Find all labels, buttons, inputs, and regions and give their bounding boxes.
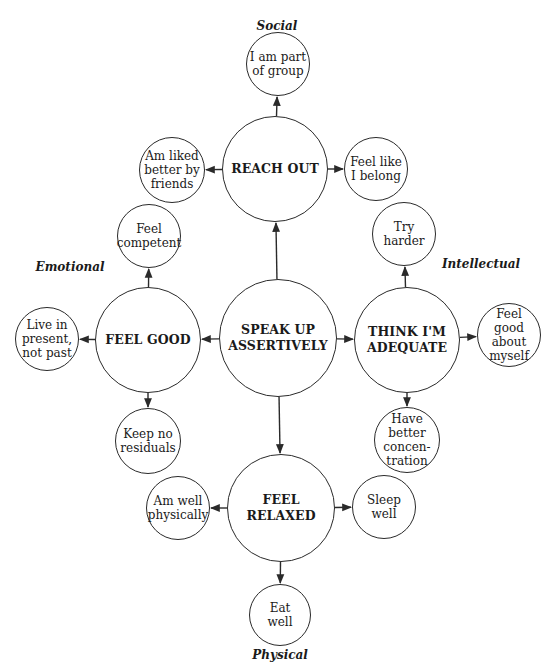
arrow-connector — [405, 267, 406, 287]
node-label: I am part of group — [250, 50, 306, 78]
arrow-connector — [279, 397, 280, 453]
outcome-node-part-of-group: I am part of group — [246, 32, 310, 96]
category-label-physical: Physical — [252, 648, 308, 662]
outcome-node-eat-well: Eat well — [249, 584, 311, 646]
node-label: FEEL RELAXED — [228, 492, 334, 524]
category-label-emotional: Emotional — [35, 260, 104, 274]
assertiveness-concept-map: Social Emotional Intellectual Physical S… — [0, 0, 560, 668]
category-label-intellectual: Intellectual — [442, 257, 520, 271]
category-label-social: Social — [257, 19, 298, 33]
arrow-connector — [277, 97, 278, 116]
outcome-node-feel-good-myself: Feel good about myself — [477, 303, 541, 367]
node-label: REACH OUT — [231, 161, 319, 177]
node-label: FEEL GOOD — [105, 332, 190, 348]
node-label: Eat well — [267, 601, 292, 629]
node-label: Feel like I belong — [350, 155, 402, 183]
hub-node-feel-good: FEEL GOOD — [95, 287, 201, 393]
hub-node-feel-relaxed: FEEL RELAXED — [227, 454, 335, 562]
node-label: Keep no residuals — [120, 427, 175, 455]
outcome-node-keep-no-residuals: Keep no residuals — [115, 408, 181, 474]
node-label: Have better concen- tration — [383, 412, 430, 468]
outcome-node-sleep-well: Sleep well — [352, 475, 416, 539]
node-label: Sleep well — [367, 493, 401, 521]
center-node-speak-up-assertively: SPEAK UP ASSERTIVELY — [219, 279, 337, 397]
hub-node-think-adequate: THINK I'M ADEQUATE — [354, 287, 460, 393]
node-label: Try harder — [383, 220, 424, 248]
node-label: Am liked better by friends — [144, 149, 200, 191]
outcome-node-better-concentration: Have better concen- tration — [374, 407, 440, 473]
outcome-node-live-present: Live in present, not past — [15, 307, 79, 371]
node-label: THINK I'M ADEQUATE — [367, 324, 447, 356]
node-label: Live in present, not past — [22, 318, 72, 360]
outcome-node-try-harder: Try harder — [372, 202, 436, 266]
node-label: Feel competent — [117, 222, 182, 250]
outcome-node-feel-belong: Feel like I belong — [344, 137, 408, 201]
node-label: Am well physically — [148, 494, 209, 522]
outcome-node-liked-by-friends: Am liked better by friends — [139, 137, 205, 203]
outcome-node-feel-competent: Feel competent — [117, 204, 181, 268]
outcome-node-well-physically: Am well physically — [146, 476, 210, 540]
node-label: Feel good about myself — [478, 307, 540, 363]
arrow-connector — [460, 337, 476, 338]
node-label: SPEAK UP ASSERTIVELY — [228, 322, 328, 354]
hub-node-reach-out: REACH OUT — [222, 116, 328, 222]
arrow-connector — [276, 223, 277, 279]
